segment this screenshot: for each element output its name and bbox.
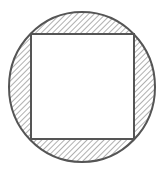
inscribed-square [31,34,134,139]
inscribed-square-diagram [0,0,166,174]
diagram-canvas [0,0,166,174]
